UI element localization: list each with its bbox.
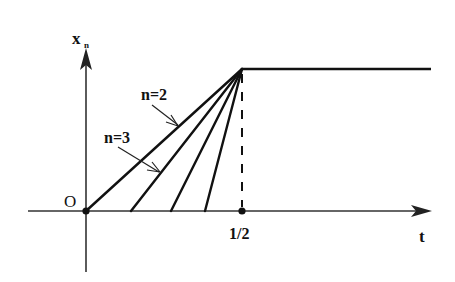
annotation-arrow-n2 (152, 105, 178, 126)
origin-dot (82, 207, 89, 214)
diagram: x n t O 1/2 n=2 n=3 (0, 0, 455, 282)
annotation-label-n3: n=3 (104, 129, 130, 146)
y-axis-label: x (72, 29, 81, 48)
half-dot (238, 207, 245, 214)
origin-label: O (64, 192, 76, 211)
xn-axis (80, 48, 92, 272)
ramp-n5 (205, 69, 242, 211)
ramp-n4 (171, 69, 242, 211)
y-axis-subscript: n (84, 40, 89, 50)
tick-label-half: 1/2 (229, 225, 249, 242)
diagram-svg: x n t O 1/2 n=2 n=3 (0, 0, 455, 282)
annotation-label-n2: n=2 (141, 86, 167, 103)
x-axis-label: t (419, 227, 425, 246)
